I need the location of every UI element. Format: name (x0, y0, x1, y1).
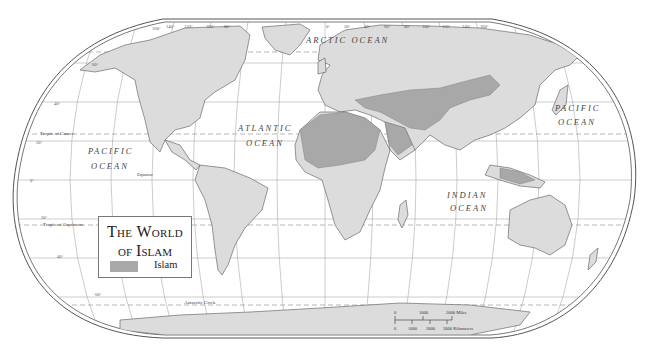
svg-text:100°: 100° (422, 24, 431, 29)
scale-bar: 0 1000 2000 Miles 0 1000 2000 3000 Kilom… (392, 305, 492, 337)
arctic-ocean-label: ARCTIC OCEAN (305, 35, 389, 45)
svg-text:100°: 100° (206, 24, 215, 29)
svg-text:0°: 0° (30, 178, 34, 183)
svg-text:20°: 20° (344, 24, 351, 29)
legend-title-line-2: of Islam (99, 242, 191, 260)
antarctic-circle-label: Antarctic Circle (184, 300, 217, 305)
svg-text:60°: 60° (384, 24, 391, 29)
atlantic-ocean-label-1: ATLANTIC (237, 123, 292, 133)
svg-text:80°: 80° (404, 24, 411, 29)
indian-ocean-label-2: OCEAN (450, 203, 488, 213)
pacific-west-label-2: OCEAN (91, 161, 129, 171)
islam-legend-label: Islam (154, 259, 177, 270)
atlantic-ocean-label-2: OCEAN (246, 138, 284, 148)
svg-text:40°: 40° (57, 254, 64, 259)
svg-text:160°: 160° (480, 24, 489, 29)
equator-label: Equator (137, 172, 153, 177)
pacific-east-label-2: OCEAN (558, 117, 596, 127)
indian-ocean-label-1: INDIAN (446, 190, 487, 200)
svg-text:20°: 20° (36, 140, 43, 145)
svg-text:20°: 20° (41, 215, 48, 220)
svg-text:120°: 120° (184, 24, 193, 29)
svg-text:0: 0 (394, 326, 397, 331)
tropic-capricorn-label: Tropic of Capricorn (43, 222, 83, 227)
svg-text:2000 Miles: 2000 Miles (446, 310, 467, 315)
svg-text:3000 Kilometers: 3000 Kilometers (443, 326, 473, 331)
pacific-west-label-1: PACIFIC (87, 146, 133, 156)
svg-text:40°: 40° (54, 101, 61, 106)
svg-text:0: 0 (394, 310, 397, 315)
world-map: ARCTIC OCEAN ATLANTIC OCEAN PACIFIC OCEA… (0, 0, 648, 352)
legend-title-line-1: The World (99, 223, 191, 241)
svg-text:60°: 60° (95, 292, 102, 297)
pacific-east-label-1: PACIFIC (554, 103, 600, 113)
svg-text:2000: 2000 (426, 326, 436, 331)
svg-text:140°: 140° (462, 24, 471, 29)
svg-text:60°: 60° (92, 62, 99, 67)
svg-text:140°: 140° (166, 24, 175, 29)
tropic-cancer-label: Tropic of Cancer (40, 131, 74, 136)
svg-text:1000: 1000 (419, 310, 429, 315)
svg-text:160°: 160° (152, 26, 161, 31)
svg-text:1000: 1000 (408, 326, 418, 331)
svg-text:0°: 0° (326, 24, 330, 29)
svg-text:80°: 80° (224, 24, 231, 29)
svg-text:40°: 40° (364, 24, 371, 29)
map-legend: The World of Islam Islam (98, 216, 192, 278)
islam-swatch (110, 261, 138, 272)
svg-text:120°: 120° (442, 24, 451, 29)
